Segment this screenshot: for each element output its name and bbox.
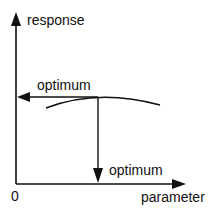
origin-label: 0: [11, 189, 19, 203]
response-curve: [46, 97, 160, 108]
diagram-canvas: [0, 0, 215, 211]
y-axis-label: response: [27, 13, 85, 27]
x-axis-label: parameter: [141, 190, 205, 204]
optimum-response-label: optimum: [37, 78, 91, 92]
optimum-parameter-arrowhead-icon: [93, 168, 103, 183]
optimum-parameter-label: optimum: [109, 163, 163, 177]
optimum-response-arrowhead-icon: [17, 92, 30, 102]
x-axis-arrowhead-icon: [172, 179, 186, 189]
y-axis-arrowhead-icon: [11, 12, 21, 26]
